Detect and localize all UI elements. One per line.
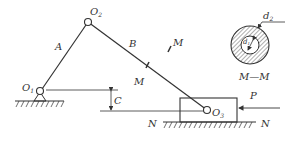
joint-O2 — [85, 19, 92, 26]
label-A: A — [54, 41, 62, 52]
section-mark-upper — [168, 46, 171, 52]
link-A — [40, 22, 88, 92]
ground-right — [163, 122, 256, 128]
label-M-upper: M — [172, 37, 184, 48]
joint-O3 — [204, 107, 211, 114]
label-O3: O3 — [212, 107, 224, 119]
joint-O1 — [37, 88, 44, 95]
label-M-lower: M — [133, 76, 145, 87]
mechanism-diagram: O1 O2 O3 A B C M M P N N M—M d2 d1 — [0, 0, 290, 142]
label-B: B — [128, 38, 136, 49]
label-C: C — [114, 95, 122, 106]
label-N-left: N — [147, 118, 158, 129]
label-section-MM: M—M — [238, 71, 270, 82]
label-P: P — [249, 90, 257, 101]
label-d2: d2 — [263, 10, 273, 22]
label-N-right: N — [260, 118, 271, 129]
cross-section — [231, 22, 285, 64]
label-O2: O2 — [90, 6, 102, 18]
label-O1: O1 — [22, 82, 34, 94]
